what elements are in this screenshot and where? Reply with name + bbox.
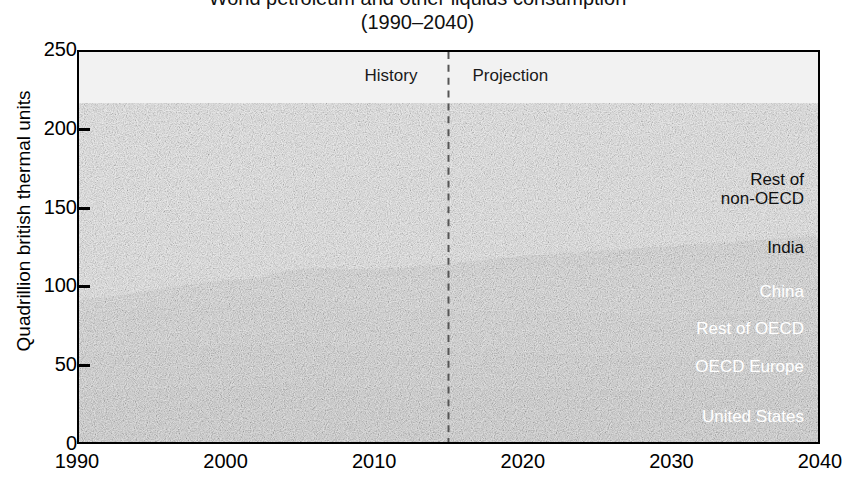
series-label-line2: non-OECD [721, 189, 804, 208]
series-label-line1: Rest of OECD [696, 319, 804, 338]
annotation-projection: Projection [473, 66, 549, 85]
y-tick-mark [77, 207, 90, 210]
y-tick-mark [77, 285, 90, 288]
y-axis-ticks: 050100150200250 [0, 0, 77, 480]
series-label-line1: United States [702, 407, 804, 426]
series-label-line1: China [760, 282, 804, 301]
x-tick-label: 1990 [32, 450, 122, 472]
y-tick-mark [77, 364, 90, 367]
y-tick-label: 50 [21, 354, 77, 374]
plot-area: History Projection Rest ofnon-OECD India… [77, 50, 820, 444]
series-label-rest-of-non-oecd: Rest ofnon-OECD [721, 170, 804, 208]
series-label-china: China [760, 282, 804, 301]
series-label-oecd-europe: OECD Europe [695, 357, 804, 376]
x-tick-label: 2030 [626, 450, 716, 472]
series-label-line1: OECD Europe [695, 357, 804, 376]
y-tick-label: 200 [21, 118, 77, 138]
annotation-history: History [365, 66, 418, 85]
x-tick-label: 2040 [775, 450, 846, 472]
y-tick-mark [77, 128, 90, 131]
chart-title-line1: World petroleum and other liquids consum… [0, 0, 835, 10]
y-tick-label: 100 [21, 275, 77, 295]
y-tick-label: 150 [21, 197, 77, 217]
series-label-line1: Rest of [721, 170, 804, 189]
stacked-area-chart [79, 52, 818, 442]
series-label-line1: India [767, 238, 804, 257]
x-tick-label: 2000 [181, 450, 271, 472]
x-tick-label: 2020 [478, 450, 568, 472]
y-tick-label: 250 [21, 39, 77, 59]
series-label-united-states: United States [702, 407, 804, 426]
x-tick-label: 2010 [329, 450, 419, 472]
chart-title-line2: (1990–2040) [0, 10, 835, 34]
chart-title: World petroleum and other liquids consum… [0, 0, 835, 34]
series-label-rest-of-oecd: Rest of OECD [696, 319, 804, 338]
series-label-india: India [767, 238, 804, 257]
